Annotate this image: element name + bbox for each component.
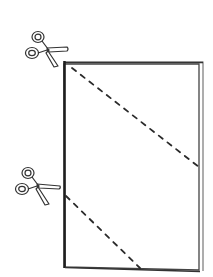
folded-paper-diagram [0,0,213,277]
scissors-icon [16,168,61,206]
scissors-icon [26,32,69,68]
paper-front-sheet [64,64,199,270]
